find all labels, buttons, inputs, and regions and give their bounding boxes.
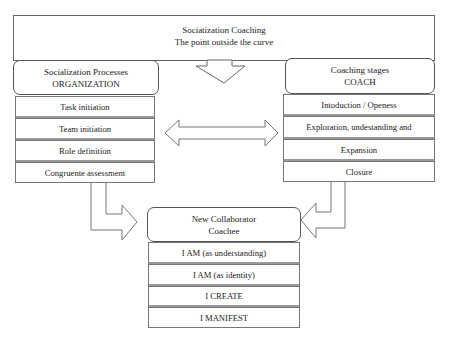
coachee-item: I AM (as identity) [148,264,300,286]
organization-item: Task initiation [15,96,155,118]
coachee-item: I MANIFEST [148,307,300,328]
organization-item: Congruente assessment [15,162,155,183]
bent-arrow-right-icon [91,182,137,240]
coach-item: Closure [283,161,435,182]
organization-header: Socialization Processes ORGANIZATION [13,60,159,95]
organization-item: Team initiation [15,118,155,140]
bent-arrow-left-icon [301,181,345,238]
double-arrow-icon [165,120,278,146]
coachee-header-subtitle: Coachee [209,225,240,237]
coach-item: Expansion [283,139,435,161]
organization-header-subtitle: ORGANIZATION [52,78,120,90]
down-arrow-icon [196,60,245,83]
coach-item: Exploration, undestanding and [283,116,435,139]
coachee-header-title: New Collaborator [192,213,257,225]
coach-header-title: Coaching stages [331,64,390,76]
organization-item: Role definition [15,140,155,162]
coachee-item: I AM (as understanding) [148,242,300,264]
coach-item: Intoduction / Openess [283,94,435,116]
coach-header-subtitle: COACH [344,76,376,88]
organization-header-title: Socialization Processes [44,66,128,78]
coach-header: Coaching stages COACH [285,58,435,94]
coachee-header: New Collaborator Coachee [147,207,301,242]
coachee-item: I CREATE [148,286,300,307]
